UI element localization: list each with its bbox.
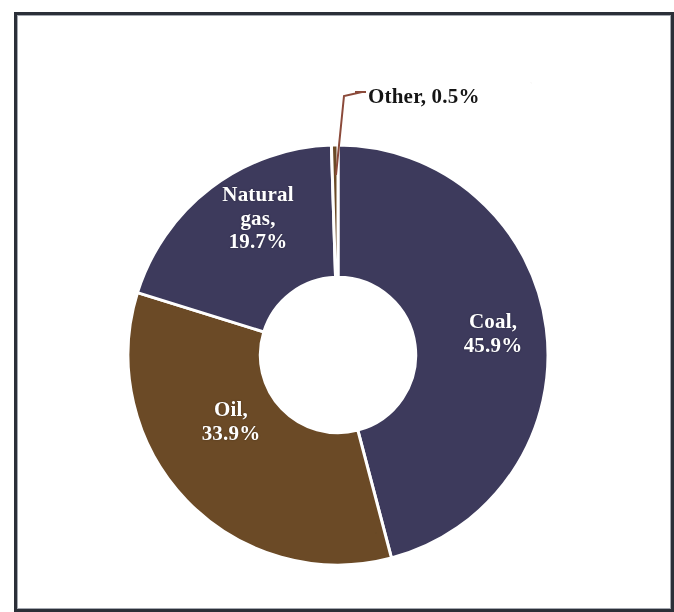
donut-slices <box>128 145 548 565</box>
donut-slice-oil[interactable] <box>128 293 392 565</box>
